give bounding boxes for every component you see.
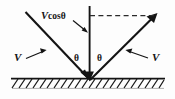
incoming-velocity-pointer-arrow (26, 48, 47, 58)
incoming-velocity-label: V (14, 52, 21, 63)
angle-label-left: θ (74, 54, 79, 64)
incoming-velocity-ray (26, 12, 91, 81)
outgoing-velocity-pointer-arrow (125, 48, 148, 58)
right-v-pointer-shaft (128, 51, 148, 58)
normal-component-label: Vcosθ (41, 11, 66, 22)
incoming-ray-line (26, 12, 90, 79)
physics-diagram: Vcosθ V V θ θ (0, 0, 175, 99)
normal-component-symbol: V (41, 10, 48, 21)
outgoing-velocity-label: V (152, 52, 159, 63)
outgoing-ray-line (90, 16, 155, 81)
angle-label-right: θ (97, 54, 102, 64)
vertical-normal-line (85, 6, 94, 82)
ground-hatching (12, 79, 164, 88)
diagram-canvas (0, 0, 175, 99)
normal-component-angle: θ (61, 11, 66, 21)
right-v-pointer-arrowhead (125, 48, 132, 53)
normal-component-function: cos (48, 11, 61, 21)
normal-component-pointer-arrow (73, 21, 88, 33)
hatched-ground-surface (11, 79, 165, 89)
outgoing-velocity-ray (90, 13, 158, 80)
